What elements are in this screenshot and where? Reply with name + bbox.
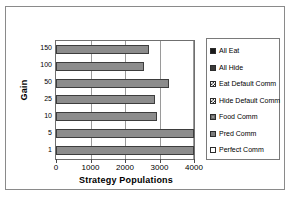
page-canvas: Gain 15010050251051 01000200030004000 St… <box>0 0 292 215</box>
x-axis-title: Strategy Populations <box>36 175 216 185</box>
legend-label: All Eat <box>219 47 239 55</box>
x-axis-tick-label: 1000 <box>74 163 108 172</box>
legend-item[interactable]: All Hide <box>210 60 276 77</box>
bar <box>56 129 194 138</box>
legend-item[interactable]: Hide Default Comm <box>210 93 276 110</box>
bar <box>56 112 157 121</box>
bar-row <box>56 75 194 92</box>
legend-swatch-icon <box>210 65 216 71</box>
y-axis-tick-label: 5 <box>26 129 52 137</box>
bar-row <box>56 125 194 142</box>
legend-swatch-icon <box>210 131 216 137</box>
bar-series <box>56 41 194 159</box>
y-axis-tick-label: 150 <box>26 44 52 52</box>
y-axis-tick-label: 50 <box>26 78 52 86</box>
bar-row <box>56 41 194 58</box>
legend-label: Eat Default Comm <box>219 80 276 88</box>
legend-swatch-icon <box>210 48 216 54</box>
y-axis-tick-labels: 15010050251051 <box>22 40 52 160</box>
bar-row <box>56 142 194 159</box>
legend-label: All Hide <box>219 64 243 72</box>
x-axis-tick-label: 2000 <box>108 163 142 172</box>
legend-swatch-icon <box>210 98 216 104</box>
x-axis-tick-label: 0 <box>39 163 73 172</box>
bar <box>56 95 155 104</box>
legend-item[interactable]: All Eat <box>210 43 276 60</box>
bar-chart: Gain 15010050251051 01000200030004000 St… <box>6 7 284 189</box>
y-axis-tick-label: 10 <box>26 112 52 120</box>
figure-frame: Gain 15010050251051 01000200030004000 St… <box>5 6 285 190</box>
bar-row <box>56 108 194 125</box>
bar <box>56 79 169 88</box>
legend-swatch-icon <box>210 114 216 120</box>
bar-row <box>56 58 194 75</box>
y-axis-tick-label: 100 <box>26 61 52 69</box>
legend-label: Food Comm <box>219 113 258 121</box>
x-axis-tick-label: 4000 <box>177 163 211 172</box>
legend-item[interactable]: Eat Default Comm <box>210 76 276 93</box>
legend-item[interactable]: Perfect Comm <box>210 142 276 159</box>
legend-item[interactable]: Pred Comm <box>210 126 276 143</box>
plot-area <box>55 40 195 160</box>
bar <box>56 62 144 71</box>
y-axis-tick-label: 25 <box>26 95 52 103</box>
y-axis-tick-label: 1 <box>26 146 52 154</box>
legend-label: Perfect Comm <box>219 146 264 154</box>
legend-swatch-icon <box>210 81 216 87</box>
bar <box>56 146 194 155</box>
bar-row <box>56 92 194 109</box>
x-axis-tick-labels: 01000200030004000 <box>55 163 195 175</box>
page-caption-artifact <box>22 203 272 211</box>
x-axis-tick-label: 3000 <box>143 163 177 172</box>
legend-label: Pred Comm <box>219 130 256 138</box>
chart-legend: All EatAll HideEat Default CommHide Defa… <box>206 38 280 160</box>
legend-item[interactable]: Food Comm <box>210 109 276 126</box>
legend-swatch-icon <box>210 147 216 153</box>
bar <box>56 45 149 54</box>
legend-label: Hide Default Comm <box>219 97 280 105</box>
